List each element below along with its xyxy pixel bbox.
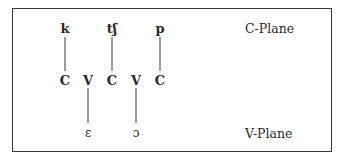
c-plane-segment-p: p [155, 21, 164, 36]
skeleton-slot-v2: V [130, 73, 142, 88]
skeleton-slot-v1: V [82, 73, 94, 88]
v-plane-label: V-Plane [244, 126, 292, 141]
c-plane-segment-tsh: tʃ [107, 21, 118, 36]
v-plane-segment-epsilon: ε [85, 126, 91, 140]
v-plane-segment-open-o: ɔ [133, 126, 140, 140]
c-plane-label: C-Plane [245, 21, 294, 36]
cv-tier-diagram: k tʃ p C V C V C ε ɔ C-Plane V-Plane [0, 0, 338, 161]
c-plane-segment-k: k [60, 21, 70, 36]
skeleton-slot-c3: C [155, 73, 165, 88]
skeleton-slot-c2: C [107, 73, 117, 88]
skeleton-slot-c1: C [60, 73, 70, 88]
